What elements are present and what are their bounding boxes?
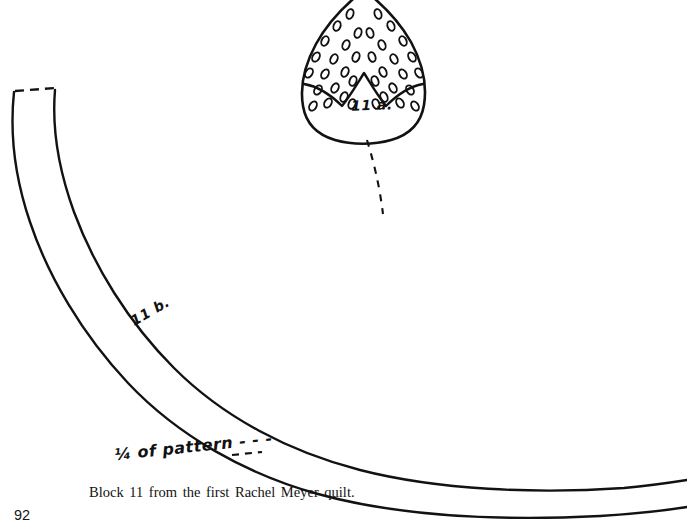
leaf-dashed-stem-guide: [367, 140, 383, 214]
page-number: 92: [14, 507, 30, 523]
figure-caption: Block 11 from the first Rachel Meyer qui…: [89, 484, 355, 501]
quarter-pattern-dash-pointer: [232, 452, 262, 455]
leaf-template-label: 11 a.: [351, 96, 393, 113]
band-dashed-top-edge: [15, 88, 55, 91]
band-inner-edge: [54, 90, 687, 491]
pattern-illustration: [0, 0, 687, 527]
scanned-book-page: 11 a. 11 b. ¼ of pattern - - - Block 11 …: [0, 0, 687, 527]
